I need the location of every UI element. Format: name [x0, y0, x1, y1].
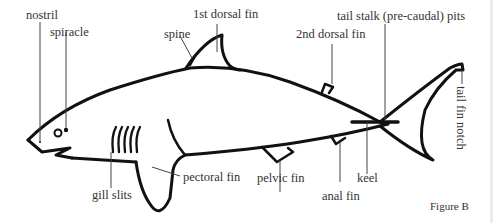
- body-lower-rear: [185, 124, 388, 155]
- anal-fin-outline: [331, 136, 345, 144]
- snout-outline: [28, 140, 72, 158]
- label-keel: keel: [357, 171, 378, 185]
- label-anal-fin: anal fin: [322, 189, 360, 203]
- gill-slit-1: [112, 127, 116, 152]
- label-pectoral-fin: pectoral fin: [183, 170, 240, 184]
- label-pelvic-fin: pelvic fin: [257, 171, 305, 185]
- body-upper-outline: [28, 67, 388, 140]
- label-second-dorsal-fin: 2nd dorsal fin: [296, 27, 365, 41]
- label-tail-fin-notch: tail fin notch: [454, 86, 468, 150]
- pectoral-fin-inner: [168, 120, 185, 155]
- pelvic-fin-outline: [262, 147, 293, 162]
- label-spine: spine: [164, 27, 190, 41]
- eye-icon: [55, 130, 62, 137]
- label-spiracle: spiracle: [50, 25, 89, 39]
- second-dorsal-fin-outline: [322, 84, 333, 93]
- leader-pectoral: [152, 167, 180, 176]
- label-first-dorsal-fin: 1st dorsal fin: [193, 7, 258, 21]
- label-gill-slits: gill slits: [92, 188, 132, 202]
- gill-slit-3: [124, 127, 128, 152]
- first-dorsal-fin-outline: [186, 35, 240, 70]
- gill-slit-4: [130, 127, 134, 152]
- spiracle-dot: [64, 128, 68, 132]
- pectoral-fin-outline: [136, 155, 185, 211]
- gill-slit-5: [136, 127, 140, 152]
- tail-fin-outline: [380, 64, 463, 160]
- label-nostril: nostril: [26, 8, 58, 22]
- body-lower-front: [72, 158, 136, 162]
- label-tail-stalk-pits: tail stalk (pre-caudal) pits: [337, 9, 465, 23]
- gill-slit-2: [118, 127, 122, 152]
- figure-caption: Figure B: [430, 200, 469, 212]
